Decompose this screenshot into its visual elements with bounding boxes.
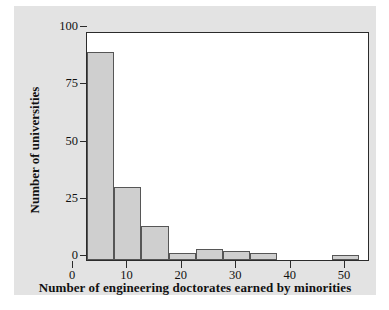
y-axis-tick (80, 255, 87, 256)
histogram-bar (87, 52, 114, 260)
y-axis-tick-label: 50 (44, 135, 78, 148)
figure-panel: 0255075100 01020304050 Number of univers… (14, 6, 376, 295)
y-axis-tick (80, 141, 87, 142)
x-axis-tick (126, 261, 127, 268)
y-axis-tick (80, 198, 87, 199)
y-axis-tick-label: 25 (44, 192, 78, 205)
y-axis-tick (80, 26, 87, 27)
y-axis-title: Number of universities (27, 60, 43, 240)
bar-series (87, 33, 368, 260)
histogram-bar (114, 187, 141, 260)
x-axis-tick (344, 261, 345, 268)
y-axis-tick-label: 100 (44, 20, 78, 33)
x-axis-tick (72, 261, 73, 268)
x-axis-tick (235, 261, 236, 268)
x-axis-title: Number of engineering doctorates earned … (14, 280, 376, 296)
x-axis-tick (290, 261, 291, 268)
x-axis-tick (181, 261, 182, 268)
y-axis-tick-label: 75 (44, 77, 78, 90)
histogram-figure: 0255075100 01020304050 Number of univers… (0, 0, 389, 310)
histogram-bar (332, 255, 359, 260)
histogram-bar (196, 249, 223, 260)
histogram-bar (250, 253, 277, 260)
histogram-bar (169, 253, 196, 260)
y-axis-tick-label: 0 (44, 249, 78, 262)
plot-area (86, 32, 369, 261)
histogram-bar (141, 226, 168, 260)
y-axis-tick (80, 83, 87, 84)
histogram-bar (223, 251, 250, 260)
